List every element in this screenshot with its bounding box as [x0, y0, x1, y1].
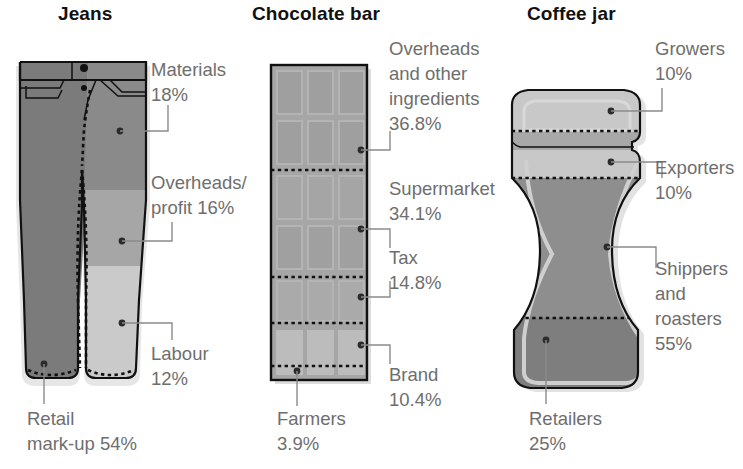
callout-chocolate-overheads: Overheads and other ingredients 36.8% [389, 36, 480, 136]
coffee-band-shippers [500, 178, 660, 318]
callout-chocolate-tax: Tax 14.8% [389, 245, 441, 295]
jeans-rivet [81, 85, 87, 91]
callout-coffee-exporters: Exporters 10% [655, 155, 734, 205]
callout-jeans-labour: Labour 12% [151, 341, 209, 391]
callout-chocolate-supermarket: Supermarket 34.1% [389, 176, 495, 226]
callout-coffee-growers: Growers 10% [655, 36, 725, 86]
coffee-illustration [500, 80, 662, 404]
callout-chocolate-farmers: Farmers 3.9% [277, 406, 346, 456]
jeans-button [80, 64, 88, 72]
chocolate-illustration [271, 65, 390, 406]
callout-jeans-retail: Retail mark-up 54% [27, 406, 137, 456]
infographic-artwork [0, 0, 743, 469]
callout-coffee-retailers: Retailers 25% [529, 406, 602, 456]
callout-chocolate-brand: Brand 10.4% [389, 362, 441, 412]
callout-coffee-shippers: Shippers and roasters 55% [655, 256, 728, 356]
infographic-root: Jeans Chocolate bar Coffee jar [0, 0, 743, 469]
jeans-illustration [10, 55, 172, 404]
callout-jeans-materials: Materials 18% [151, 57, 226, 107]
callout-jeans-overheads: Overheads/ profit 16% [151, 170, 247, 220]
